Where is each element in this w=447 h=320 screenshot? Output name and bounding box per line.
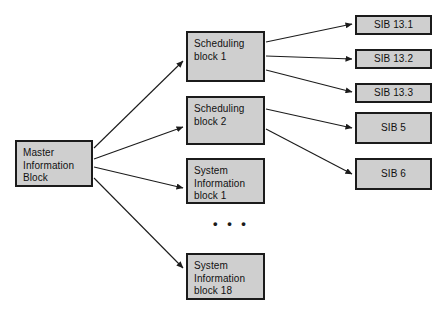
node-sched2: Scheduling block 2: [186, 96, 265, 145]
node-label-mib: Master Information Block: [23, 147, 91, 185]
node-label-sib133: SIB 13.3: [374, 87, 413, 100]
node-sched1: Scheduling block 1: [186, 31, 265, 82]
node-sib18: System Information block 18: [186, 253, 265, 300]
edge-sched2-to-sib5: [266, 109, 352, 128]
node-sib132: SIB 13.2: [355, 49, 432, 69]
ellipsis-label: • • •: [213, 217, 249, 230]
edge-sched1-to-sib132: [266, 56, 352, 59]
node-sib1: System Information block 1: [186, 158, 265, 204]
edge-mib-to-sched2: [94, 127, 183, 159]
edge-sched1-to-sib131: [266, 24, 352, 42]
edge-sched2-to-sib6: [266, 129, 352, 174]
node-label-sched2: Scheduling block 2: [194, 103, 263, 128]
edge-mib-to-sched1: [94, 61, 183, 148]
edge-sched1-to-sib133: [266, 70, 352, 92]
node-mib: Master Information Block: [15, 140, 93, 187]
node-label-sib131: SIB 13.1: [374, 19, 413, 32]
node-label-sib1: System Information block 1: [194, 165, 263, 203]
diagram-canvas: Master Information BlockScheduling block…: [0, 0, 447, 320]
node-label-sib18: System Information block 18: [194, 260, 263, 298]
node-label-sib132: SIB 13.2: [374, 53, 413, 66]
edge-mib-to-sib1: [94, 167, 183, 188]
node-sib131: SIB 13.1: [355, 15, 432, 35]
edge-mib-to-sib18: [94, 178, 183, 268]
node-label-sched1: Scheduling block 1: [194, 38, 263, 63]
node-label-sib6: SIB 6: [381, 168, 406, 181]
node-sib6: SIB 6: [355, 158, 432, 190]
node-sib5: SIB 5: [355, 112, 432, 144]
node-sib133: SIB 13.3: [355, 83, 432, 103]
node-label-sib5: SIB 5: [381, 122, 406, 135]
